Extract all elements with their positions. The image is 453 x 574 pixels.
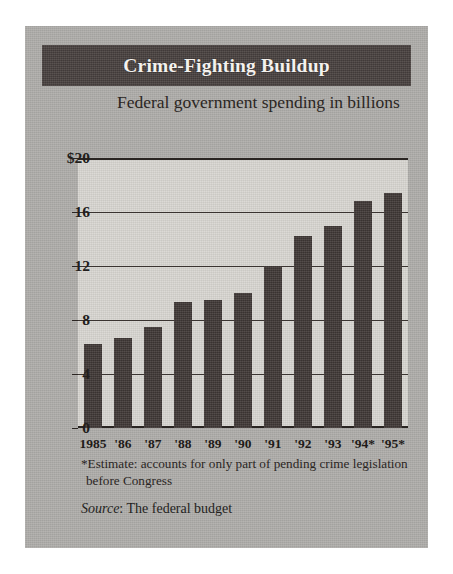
y-axis-tick-mark [72, 158, 78, 159]
y-axis-tick-label: 8 [46, 311, 90, 329]
y-axis-tick-mark [72, 374, 78, 375]
source-label: Source [81, 501, 119, 516]
y-axis-tick-mark [72, 266, 78, 267]
x-axis-tick-label: '95* [374, 436, 412, 452]
y-axis-tick-label: 16 [46, 203, 90, 221]
footnotes: *Estimate: accounts for only part of pen… [81, 456, 411, 517]
y-axis-tick-label: 0 [46, 419, 90, 437]
bar-94 [354, 201, 373, 428]
bar-1985 [84, 344, 103, 428]
y-axis-tick-mark [72, 428, 78, 429]
bar-87 [144, 327, 163, 428]
bar-91 [264, 266, 283, 428]
plot-area [78, 158, 408, 428]
bar-92 [294, 236, 313, 428]
bar-88 [174, 302, 193, 428]
bar-series [78, 158, 408, 428]
bar-86 [114, 338, 133, 428]
infographic-card: Crime-Fighting Buildup Federal governmen… [25, 26, 428, 548]
bar-90 [234, 293, 253, 428]
estimate-footnote: *Estimate: accounts for only part of pen… [81, 456, 411, 489]
y-axis-tick-label: 4 [46, 365, 90, 383]
bar-89 [204, 300, 223, 428]
y-axis-tick-mark [72, 212, 78, 213]
bar-95 [384, 193, 403, 428]
source-text: : The federal budget [119, 501, 232, 516]
y-axis-tick-label: $20 [46, 149, 90, 167]
bar-93 [324, 226, 343, 429]
y-axis-tick-mark [72, 320, 78, 321]
source-footnote: Source: The federal budget [81, 501, 411, 517]
y-axis-tick-label: 12 [46, 257, 90, 275]
